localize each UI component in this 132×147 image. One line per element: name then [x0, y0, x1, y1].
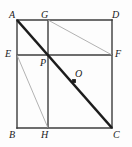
point-label-a: A	[9, 10, 15, 20]
segment-GF	[48, 20, 112, 55]
point-label-p: P	[40, 58, 46, 68]
point-label-c: C	[113, 130, 120, 140]
point-label-o: O	[75, 69, 82, 79]
segment-AC	[17, 20, 112, 128]
point-label-g: G	[41, 10, 48, 20]
point-label-d: D	[112, 10, 119, 20]
geometry-canvas	[0, 0, 132, 147]
point-label-b: B	[9, 130, 15, 140]
point-marker-O	[72, 79, 76, 83]
point-label-f: F	[115, 49, 121, 59]
point-label-e: E	[5, 49, 11, 59]
geometry-figure: AGDEPOFBHC	[0, 0, 132, 147]
point-label-h: H	[41, 130, 48, 140]
